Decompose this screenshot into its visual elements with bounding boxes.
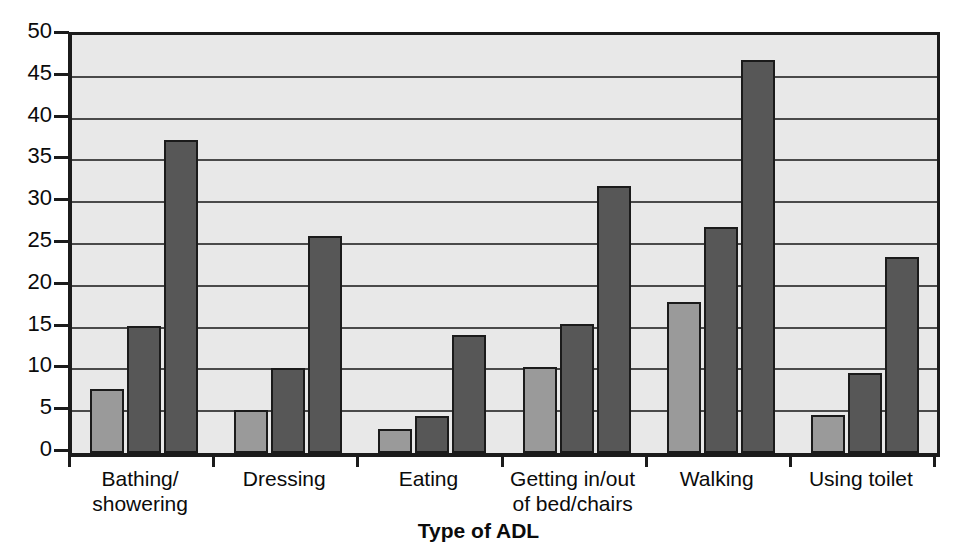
bar-chart: 05101520253035404550 Bathing/showeringDr… [0,0,957,549]
x-axis-category-label: Walking [645,466,789,491]
bar [704,227,738,453]
category-label-line: of bed/chairs [501,491,645,516]
bar [848,373,882,453]
y-axis-tick [54,198,69,201]
x-axis-category-labels: Bathing/showeringDressingEatingGetting i… [68,466,936,526]
x-axis-category-label: Bathing/showering [68,466,212,516]
plot-area [68,32,940,457]
y-axis-tick [54,365,69,368]
bar-group [216,35,360,453]
y-axis-tick-label: 40 [12,104,52,126]
y-axis-tick-label: 50 [12,20,52,42]
bar [378,429,412,453]
x-axis-category-label: Using toilet [789,466,933,491]
bar [164,140,198,454]
x-axis-category-label: Getting in/outof bed/chairs [501,466,645,516]
y-axis-tick-label: 15 [12,313,52,335]
bar [452,335,486,453]
x-axis-title: Type of ADL [0,519,957,543]
y-axis-tick-label: 35 [12,145,52,167]
bar [415,416,449,453]
category-label-line: Getting in/out [501,466,645,491]
category-label-line: Eating [356,466,500,491]
bar-group [505,35,649,453]
y-axis-tick [54,449,69,452]
y-axis-tick [54,31,69,34]
bar-group [360,35,504,453]
bar-group [793,35,937,453]
bar [234,410,268,453]
y-axis-tick-label: 5 [12,396,52,418]
y-axis-tick-label: 20 [12,271,52,293]
bar [597,186,631,453]
y-axis-tick-label: 10 [12,354,52,376]
y-axis-tick-labels: 05101520253035404550 [6,0,52,549]
y-axis-tick-label: 30 [12,187,52,209]
y-axis-tick [54,156,69,159]
y-axis-tick [54,240,69,243]
y-axis-tick [54,407,69,410]
category-label-line: Walking [645,466,789,491]
x-axis-category-label: Dressing [212,466,356,491]
y-axis-tick [54,115,69,118]
bar [127,326,161,453]
category-label-line: Bathing/ [68,466,212,491]
bar-group [72,35,216,453]
y-axis-tick [54,73,69,76]
bar [90,389,124,453]
y-axis-tick-label: 25 [12,229,52,251]
bar [667,302,701,453]
category-label-line: Using toilet [789,466,933,491]
y-axis-tick [54,324,69,327]
x-axis-category-label: Eating [356,466,500,491]
bars-layer [72,35,937,453]
y-axis-tick [54,282,69,285]
bar [523,367,557,453]
bar-group [649,35,793,453]
bar [308,236,342,453]
y-axis-tick-label: 0 [12,438,52,460]
bar [811,415,845,453]
bar [741,60,775,453]
bar [271,368,305,453]
category-label-line: Dressing [212,466,356,491]
bar [885,257,919,453]
category-label-line: showering [68,491,212,516]
y-axis-tick-label: 45 [12,62,52,84]
bar [560,324,594,453]
